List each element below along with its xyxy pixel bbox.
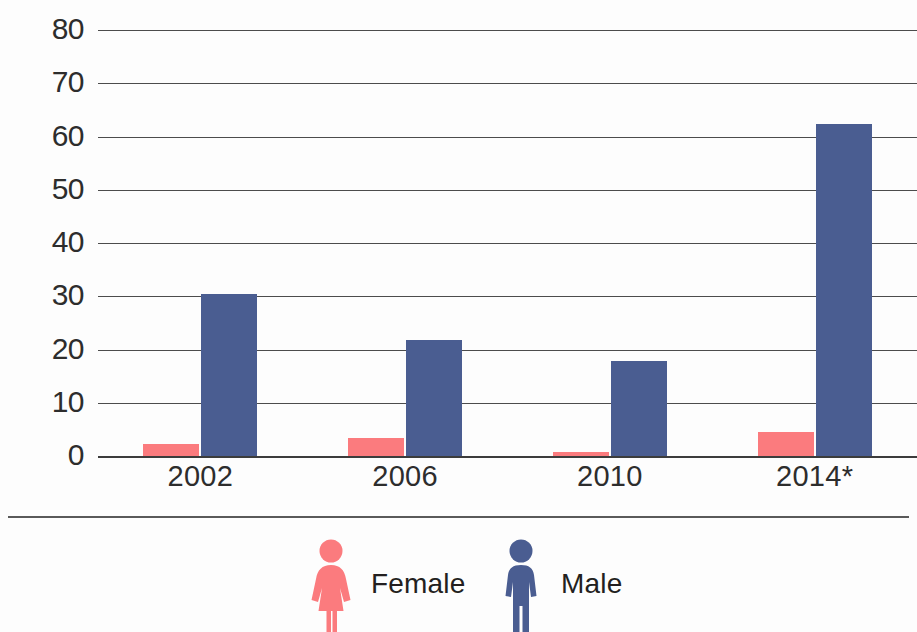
x-axis-tick-label: 2002 xyxy=(98,462,303,491)
axis-baseline xyxy=(98,456,917,458)
bar-female-2006 xyxy=(348,438,404,456)
y-axis-tick-label: 40 xyxy=(18,227,84,257)
x-axis-tick-label: 2014* xyxy=(712,462,917,491)
bar-male-2014 xyxy=(816,124,872,456)
y-axis-tick-label: 10 xyxy=(18,387,84,417)
y-axis-tick-label: 80 xyxy=(18,14,84,44)
y-axis-tick-label: 30 xyxy=(18,280,84,310)
legend-label: Male xyxy=(561,568,623,600)
y-axis-tick-label: 60 xyxy=(18,121,84,151)
y-axis-tick-label: 50 xyxy=(18,174,84,204)
gridline xyxy=(98,30,917,31)
bar-female-2002 xyxy=(143,444,199,456)
x-axis-tick-label: 2006 xyxy=(303,462,508,491)
legend-item-female: Female xyxy=(305,536,466,632)
chart-legend: FemaleMale xyxy=(0,536,917,632)
legend-label: Female xyxy=(371,568,466,600)
y-axis-tick-label: 20 xyxy=(18,334,84,364)
gridline xyxy=(98,83,917,84)
y-axis-tick-label: 0 xyxy=(18,440,84,470)
axis-separator-rule xyxy=(8,516,909,518)
bar-female-2010 xyxy=(553,452,609,456)
female-figure-icon xyxy=(305,536,357,632)
gridline xyxy=(98,137,917,138)
male-figure-icon xyxy=(495,536,547,632)
gridline xyxy=(98,243,917,244)
bar-male-2010 xyxy=(611,361,667,456)
plot-area xyxy=(98,30,917,456)
bar-male-2006 xyxy=(406,340,462,456)
bar-male-2002 xyxy=(201,294,257,456)
y-axis-tick-label: 70 xyxy=(18,67,84,97)
legend-item-male: Male xyxy=(495,536,623,632)
gridline xyxy=(98,190,917,191)
chart-figure: 80706050403020100 2002200620102014* Fema… xyxy=(0,0,917,632)
bar-female-2014 xyxy=(758,432,814,456)
x-axis-tick-label: 2010 xyxy=(508,462,713,491)
